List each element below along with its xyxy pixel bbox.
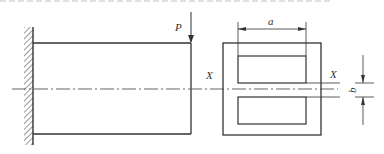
axis-label-left: X	[205, 69, 214, 81]
wall-hatching	[24, 27, 33, 145]
section-lower-cutout	[238, 97, 306, 124]
dimension-b: b	[306, 55, 374, 125]
dimension-a: a	[238, 15, 306, 56]
arrow-left-icon	[238, 27, 246, 31]
dim-b-label: b	[346, 87, 358, 93]
diagram-canvas: P X X a b	[0, 0, 384, 154]
arrow-down-icon	[361, 75, 365, 83]
axis-label-right: X	[329, 68, 338, 80]
section-upper-cutout	[238, 56, 306, 83]
dim-a-label: a	[268, 15, 274, 27]
fixed-wall	[24, 27, 33, 145]
arrow-right-icon	[298, 27, 306, 31]
beam-elevation	[33, 43, 191, 134]
load-arrow: P	[174, 12, 194, 43]
arrow-up-icon	[361, 97, 365, 105]
arrow-down-icon	[188, 35, 194, 43]
load-label: P	[174, 21, 182, 33]
